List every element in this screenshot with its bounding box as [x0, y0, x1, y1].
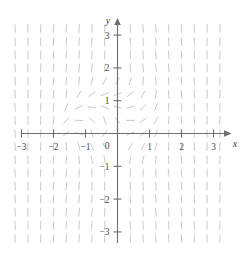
- y-axis-label: y: [105, 15, 111, 26]
- slope-field-figure: −3−2−1123321−1−2−30 y x: [0, 0, 242, 256]
- axis-name-labels: y x: [0, 0, 242, 256]
- x-axis-label: x: [232, 138, 238, 149]
